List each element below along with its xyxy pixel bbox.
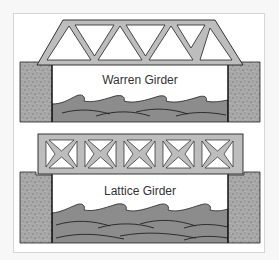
right-abutment-upper — [228, 60, 260, 122]
lattice-girder-label: Lattice Girder — [70, 184, 210, 198]
water-lower — [52, 204, 228, 243]
left-abutment-lower — [20, 172, 52, 243]
lattice-truss — [38, 134, 243, 174]
warren-girder-label: Warren Girder — [70, 73, 210, 87]
warren-truss — [37, 20, 243, 65]
bridge-diagrams — [0, 0, 279, 260]
water-upper — [52, 95, 228, 122]
right-abutment-lower — [228, 172, 260, 243]
left-abutment-upper — [20, 60, 52, 122]
warren-girder-scene — [20, 20, 260, 122]
